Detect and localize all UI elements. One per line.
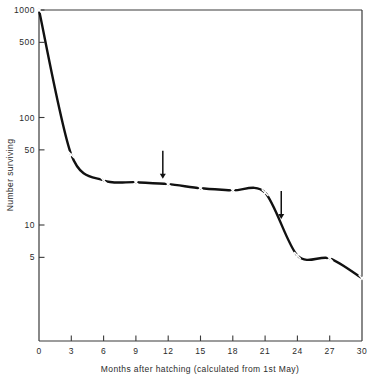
data-point-markers [36,7,365,281]
x-tick-label: 18 [228,346,238,356]
y-tick-label: 50 [25,145,35,155]
x-tick-label: 12 [163,346,173,356]
y-tick-label: 1000 [14,5,35,15]
chart-canvas: 100050010050105 036912151821242730 Month… [0,0,376,386]
x-tick-label: 30 [357,346,367,356]
y-axis-title: Number surviving [5,139,15,212]
y-tick-label: 5 [30,252,35,262]
annotation-arrow [278,191,284,219]
survivorship-curve [39,10,362,278]
y-tick-label: 100 [19,113,35,123]
x-axis-ticks [71,336,329,342]
y-axis-tick-labels: 100050010050105 [14,5,35,262]
x-tick-label: 0 [36,346,41,356]
x-axis-title: Months after hatching (calculated from 1… [101,364,299,374]
y-tick-label: 10 [25,220,35,230]
x-tick-label: 27 [324,346,334,356]
annotation-arrow [160,151,166,179]
data-point-marker [295,253,301,259]
x-tick-label: 3 [69,346,74,356]
x-tick-label: 9 [133,346,138,356]
data-point-marker [262,190,268,196]
x-axis-tick-labels: 036912151821242730 [36,346,367,356]
x-tick-label: 21 [260,346,270,356]
survivorship-chart-figure: 100050010050105 036912151821242730 Month… [0,0,376,386]
y-tick-label: 500 [19,37,35,47]
x-tick-label: 6 [101,346,106,356]
x-tick-label: 15 [195,346,205,356]
y-axis-ticks [39,10,45,257]
x-tick-label: 24 [292,346,302,356]
